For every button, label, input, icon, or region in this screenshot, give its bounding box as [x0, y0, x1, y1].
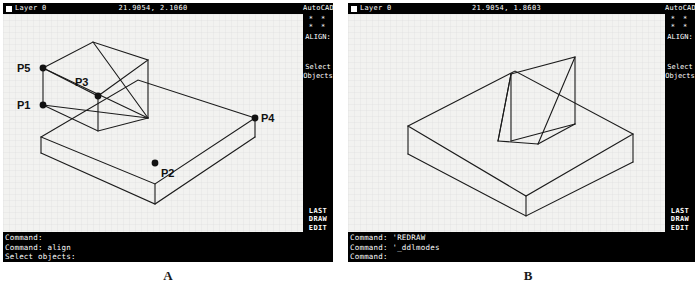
command-line-3-a: Select objects:	[5, 252, 333, 262]
coordinate-readout-a: 21.9054, 2.1060	[3, 3, 333, 14]
status-bar-b: Layer 0 21.9054, 1.8603	[348, 3, 695, 14]
side-menu-item-edit-a[interactable]: EDIT	[303, 224, 333, 233]
side-menu-bottom-a: LAST DRAW EDIT	[303, 207, 333, 233]
command-area-b[interactable]: Command: 'REDRAW Command: '_ddlmodes Com…	[348, 232, 695, 262]
isometric-drawing-b	[348, 14, 666, 232]
point-label-p5: P5	[17, 62, 30, 74]
command-line-1-b: Command: 'REDRAW	[350, 233, 695, 243]
side-menu-item-draw-b[interactable]: DRAW	[665, 215, 695, 224]
figure-caption-b: B	[508, 268, 548, 284]
command-line-1-a: Command:	[5, 233, 333, 243]
drawing-canvas-a[interactable]: P5 P3 P1 P4 P2	[3, 14, 303, 232]
side-menu-dots-a[interactable]: * * * *	[303, 15, 333, 32]
status-bar-a: Layer 0 21.9054, 2.1060	[3, 3, 333, 14]
side-menu-item-last-b[interactable]: LAST	[665, 207, 695, 216]
side-menu-item-draw-a[interactable]: DRAW	[303, 215, 333, 224]
side-menu-item-edit-b[interactable]: EDIT	[665, 224, 695, 233]
side-menu-bottom-b: LAST DRAW EDIT	[665, 207, 695, 233]
grid-overlay-b	[348, 14, 666, 232]
point-label-p4: P4	[261, 112, 275, 124]
side-menu-b[interactable]: AutoCAD * * * * ALIGN: Select Objects LA…	[665, 3, 695, 262]
side-menu-title-b: AutoCAD	[665, 4, 695, 13]
autocad-window-a: Layer 0 21.9054, 2.1060	[3, 3, 333, 262]
autocad-window-b: Layer 0 21.9054, 1.8603	[348, 3, 695, 262]
point-marker-p5	[40, 65, 47, 72]
drawing-canvas-b[interactable]	[348, 14, 666, 232]
point-label-p2: P2	[161, 167, 174, 179]
point-marker-p1	[40, 102, 47, 109]
point-label-p3: P3	[75, 76, 88, 88]
side-menu-spacer-a	[303, 41, 333, 63]
coordinate-readout-b: 21.9054, 1.8603	[348, 3, 695, 14]
command-line-2-b: Command: '_ddlmodes	[350, 243, 695, 253]
point-marker-p2	[152, 160, 159, 167]
side-menu-command-b[interactable]: ALIGN:	[665, 33, 695, 42]
side-menu-command-a[interactable]: ALIGN:	[303, 33, 333, 42]
grid-overlay-a	[3, 14, 303, 232]
figure-caption-a: A	[148, 268, 188, 284]
command-area-a[interactable]: Command: Command: align Select objects:	[3, 232, 333, 262]
side-menu-prompt-line1-b[interactable]: Select	[665, 63, 695, 72]
side-menu-prompt-line2-b[interactable]: Objects	[665, 72, 695, 81]
point-marker-p3	[95, 93, 102, 100]
command-line-2-a: Command: align	[5, 243, 333, 253]
side-menu-dots-b[interactable]: * * * *	[665, 15, 695, 32]
side-menu-a[interactable]: AutoCAD * * * * ALIGN: Select Objects LA…	[303, 3, 333, 262]
point-marker-p4	[252, 115, 259, 122]
side-menu-prompt-line2-a[interactable]: Objects	[303, 72, 333, 81]
isometric-drawing-a: P5 P3 P1 P4 P2	[3, 14, 303, 232]
side-menu-prompt-line1-a[interactable]: Select	[303, 63, 333, 72]
side-menu-title-a: AutoCAD	[303, 4, 333, 13]
point-label-p1: P1	[17, 99, 30, 111]
screenshot-root: Layer 0 21.9054, 2.1060	[0, 0, 695, 295]
side-menu-spacer-b	[665, 41, 695, 63]
command-line-3-b: Command:	[350, 252, 695, 262]
side-menu-item-last-a[interactable]: LAST	[303, 207, 333, 216]
